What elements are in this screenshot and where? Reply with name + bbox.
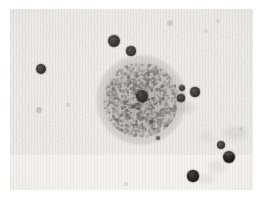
faint-speck [124, 182, 128, 186]
dark-particle [187, 170, 198, 181]
faint-speck [167, 20, 172, 25]
micrograph-page [0, 0, 265, 202]
diffuse-smudge [200, 132, 214, 142]
dark-particle [223, 151, 235, 163]
dark-particle [190, 87, 199, 96]
diffuse-smudge [224, 126, 248, 140]
diffuse-smudge [198, 174, 214, 184]
faint-speck [36, 107, 41, 112]
dark-particle [177, 94, 184, 101]
dark-particle [149, 120, 153, 124]
micrograph-plate [10, 9, 253, 190]
dark-particle [136, 90, 148, 102]
faint-speck [216, 19, 220, 23]
diffuse-smudge [177, 102, 195, 114]
faint-speck [66, 103, 69, 106]
dark-particle [126, 46, 135, 55]
diffuse-smudge [208, 161, 226, 173]
